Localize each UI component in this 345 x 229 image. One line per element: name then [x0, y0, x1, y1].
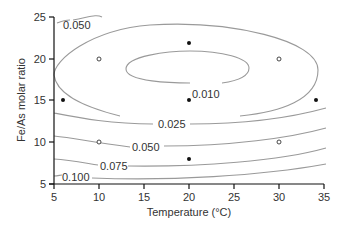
contour-labels: 0.050 0.010 0.025 0.050 0.075 0.100: [62, 19, 220, 183]
y-tick-label: 20: [34, 53, 46, 65]
y-tick-label: 25: [34, 11, 46, 23]
contour-label: 0.050: [132, 141, 160, 153]
data-point-open: [277, 140, 281, 144]
contour-label: 0.050: [63, 19, 91, 31]
data-point-filled: [187, 41, 191, 45]
data-point-filled: [61, 98, 65, 102]
y-tick-label: 15: [34, 94, 46, 106]
contour-label: 0.010: [192, 88, 220, 100]
x-tick-label: 20: [183, 191, 195, 203]
x-tick-label: 30: [273, 191, 285, 203]
data-point-filled: [314, 98, 318, 102]
data-point-filled: [187, 157, 191, 161]
contour-0.100: [54, 164, 326, 179]
x-tick-label: 25: [228, 191, 240, 203]
x-tick-label: 15: [138, 191, 150, 203]
y-tick-label: 10: [34, 136, 46, 148]
y-axis: 25 20 15 10 5 Fe/As molar ratio: [15, 11, 54, 190]
data-point-open: [277, 57, 281, 61]
contour-0.050: [54, 128, 326, 147]
contour-label: 0.025: [158, 118, 186, 130]
y-axis-title: Fe/As molar ratio: [15, 58, 27, 142]
data-point-open: [97, 140, 101, 144]
contour-0.010: [126, 51, 249, 83]
contour-lines: [54, 16, 326, 179]
data-point-filled: [187, 98, 191, 102]
x-tick-label: 5: [51, 191, 57, 203]
contour-label: 0.100: [62, 171, 90, 183]
x-axis: 5 10 15 20 25 30 35 Temperature (°C): [49, 184, 330, 218]
contour-label: 0.075: [100, 160, 128, 172]
contour-0.025: [54, 108, 326, 124]
x-axis-title: Temperature (°C): [147, 206, 231, 218]
y-tick-label: 5: [40, 178, 46, 190]
x-tick-label: 35: [318, 191, 330, 203]
data-point-open: [97, 57, 101, 61]
x-tick-label: 10: [93, 191, 105, 203]
contour-upper-left: [54, 75, 120, 116]
contour-chart: 0.050 0.010 0.025 0.050 0.075 0.100 25 2…: [0, 0, 345, 229]
contour-0.075: [54, 148, 326, 166]
contour-0.025-ellipse: [54, 16, 318, 116]
